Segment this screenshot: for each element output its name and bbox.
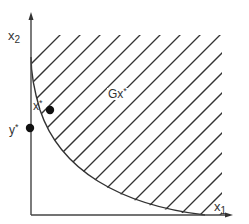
point-x-star bbox=[46, 106, 54, 114]
x2-label-base: x bbox=[8, 28, 15, 43]
x2-axis-arrow-icon bbox=[29, 12, 34, 20]
x-star-label: x* bbox=[33, 100, 43, 112]
y-star-label-sup: * bbox=[15, 122, 19, 132]
x2-label-sub: 2 bbox=[15, 34, 21, 45]
x1-label-base: x bbox=[214, 199, 221, 214]
x1-label-sub: 1 bbox=[221, 205, 227, 216]
y-star-label: y* bbox=[9, 124, 19, 136]
x-star-label-sup: * bbox=[39, 98, 43, 108]
region-label: Gx* bbox=[107, 88, 128, 100]
x2-axis-label: x2 bbox=[8, 29, 20, 42]
region-label-sup: * bbox=[123, 86, 127, 96]
region-label-base: Gx bbox=[108, 87, 123, 101]
x1-axis-label: x1 bbox=[214, 200, 226, 213]
x1-axis-arrow-icon bbox=[225, 213, 233, 218]
point-y-star bbox=[26, 124, 34, 132]
hatched-region bbox=[20, 15, 249, 224]
